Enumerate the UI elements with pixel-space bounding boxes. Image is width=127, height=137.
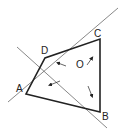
quadrilateral-abcd — [26, 39, 100, 112]
arrow-ob — [88, 86, 92, 96]
label-a: A — [16, 83, 23, 94]
line-db — [17, 47, 107, 128]
line-ac — [8, 8, 118, 102]
label-d: D — [41, 45, 48, 56]
arrow-oc — [87, 58, 92, 65]
arrow-od — [58, 63, 66, 66]
vector-quadrilateral-diagram: A B C D O — [0, 0, 127, 137]
label-o: O — [76, 59, 84, 70]
label-c: C — [94, 28, 101, 39]
label-b: B — [102, 111, 109, 122]
